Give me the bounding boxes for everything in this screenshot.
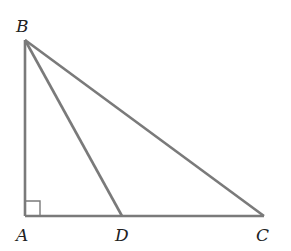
label-a: A <box>14 225 28 245</box>
triangle-diagram: B A D C <box>0 0 291 251</box>
right-angle-marker <box>25 201 40 216</box>
segment-bc <box>25 40 264 216</box>
label-b: B <box>15 16 29 36</box>
segment-bd <box>25 40 122 216</box>
label-d: D <box>114 225 129 245</box>
label-c: C <box>256 225 269 245</box>
